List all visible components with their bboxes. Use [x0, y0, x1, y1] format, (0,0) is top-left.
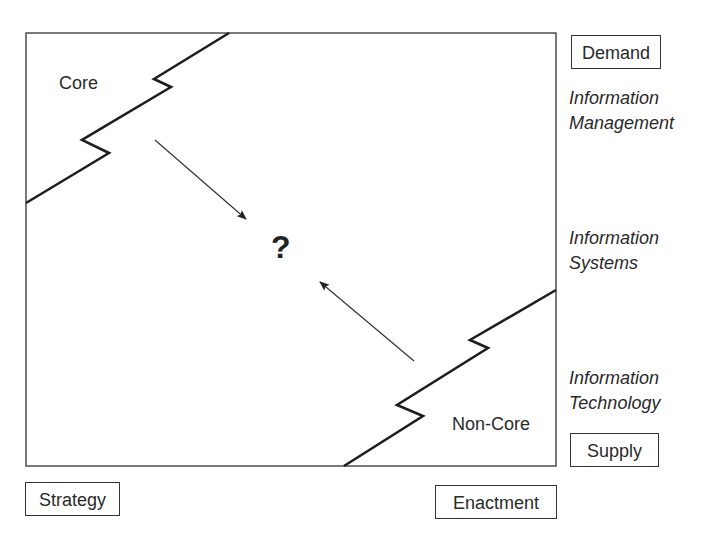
level-line1: Information — [569, 86, 674, 111]
supply-label: Supply — [570, 433, 659, 467]
level-information-management: Information Management — [569, 86, 674, 136]
level-information-technology: Information Technology — [569, 366, 660, 416]
level-line1: Information — [569, 366, 660, 391]
strategy-label: Strategy — [25, 482, 120, 516]
core-label: Core — [59, 72, 98, 94]
arrow-noncore-to-center — [320, 282, 414, 361]
level-information-systems: Information Systems — [569, 226, 659, 276]
level-line2: Technology — [569, 391, 660, 416]
enactment-label: Enactment — [435, 485, 557, 519]
demand-label: Demand — [571, 35, 661, 69]
arrow-core-to-center — [155, 140, 246, 219]
non-core-label: Non-Core — [452, 413, 530, 435]
question-mark-label: ? — [271, 236, 291, 258]
level-line2: Systems — [569, 251, 659, 276]
level-line2: Management — [569, 111, 674, 136]
main-frame — [26, 33, 556, 466]
level-line1: Information — [569, 226, 659, 251]
non-core-boundary-zigzag — [344, 290, 556, 466]
